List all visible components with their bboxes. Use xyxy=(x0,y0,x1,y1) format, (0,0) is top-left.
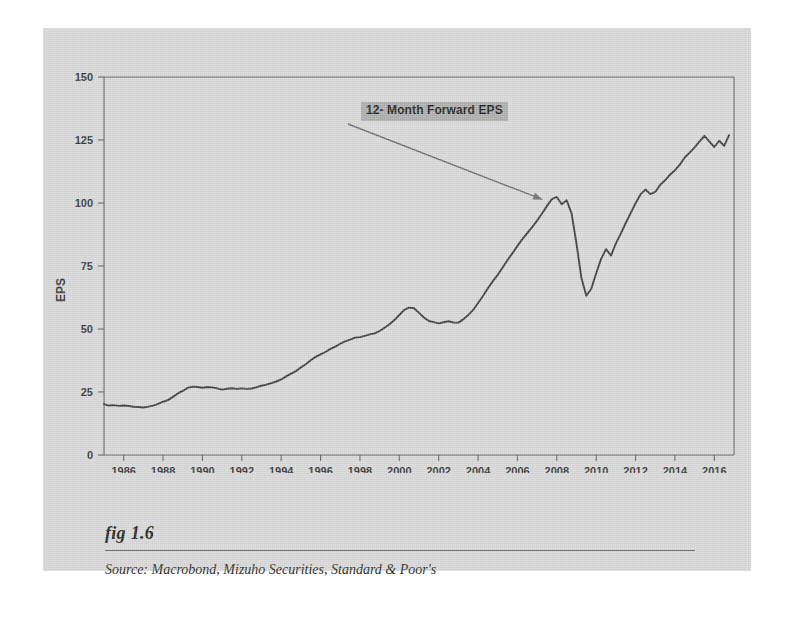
figure-number: fig 1.6 xyxy=(105,523,705,544)
y-tick-label: 0 xyxy=(87,449,93,461)
x-tick-label: 1988 xyxy=(151,465,175,473)
x-tick-label: 1986 xyxy=(111,465,135,473)
x-tick-label: 2008 xyxy=(545,465,569,473)
y-tick-label: 150 xyxy=(75,71,93,83)
x-tick-label: 1998 xyxy=(348,465,372,473)
y-axis-ticks: 0255075100125150 xyxy=(75,71,104,461)
x-tick-label: 1990 xyxy=(190,465,214,473)
eps-series-line xyxy=(104,135,729,407)
source-credit: Source: Macrobond, Mizuho Securities, St… xyxy=(105,562,705,578)
x-tick-label: 2010 xyxy=(584,465,608,473)
eps-line-chart: 0255075100125150 19861988199019921994199… xyxy=(43,28,751,473)
x-axis-ticks: 1986198819901992199419961998200020022004… xyxy=(111,455,726,473)
x-tick-label: 1994 xyxy=(269,465,294,473)
chart-plot-area: 0255075100125150 19861988199019921994199… xyxy=(43,28,751,473)
y-tick-label: 50 xyxy=(81,323,93,335)
caption-block: fig 1.6 Source: Macrobond, Mizuho Securi… xyxy=(105,523,705,578)
y-tick-label: 100 xyxy=(75,197,93,209)
annotation-label: 12- Month Forward EPS xyxy=(361,102,508,121)
y-tick-label: 75 xyxy=(81,260,93,272)
y-tick-label: 25 xyxy=(81,386,93,398)
figure-card: 0255075100125150 19861988199019921994199… xyxy=(43,28,751,571)
x-tick-label: 2004 xyxy=(466,465,491,473)
caption-divider xyxy=(105,550,695,551)
x-tick-label: 2014 xyxy=(663,465,688,473)
x-tick-label: 2000 xyxy=(387,465,411,473)
x-tick-label: 2002 xyxy=(426,465,450,473)
x-tick-label: 2012 xyxy=(623,465,647,473)
x-tick-label: 2016 xyxy=(702,465,726,473)
plot-frame xyxy=(104,77,734,455)
x-tick-label: 2006 xyxy=(505,465,529,473)
y-axis-title: EPS xyxy=(54,278,68,302)
annotation-arrow xyxy=(348,124,542,200)
x-tick-label: 1992 xyxy=(230,465,254,473)
y-tick-label: 125 xyxy=(75,134,93,146)
x-tick-label: 1996 xyxy=(308,465,332,473)
